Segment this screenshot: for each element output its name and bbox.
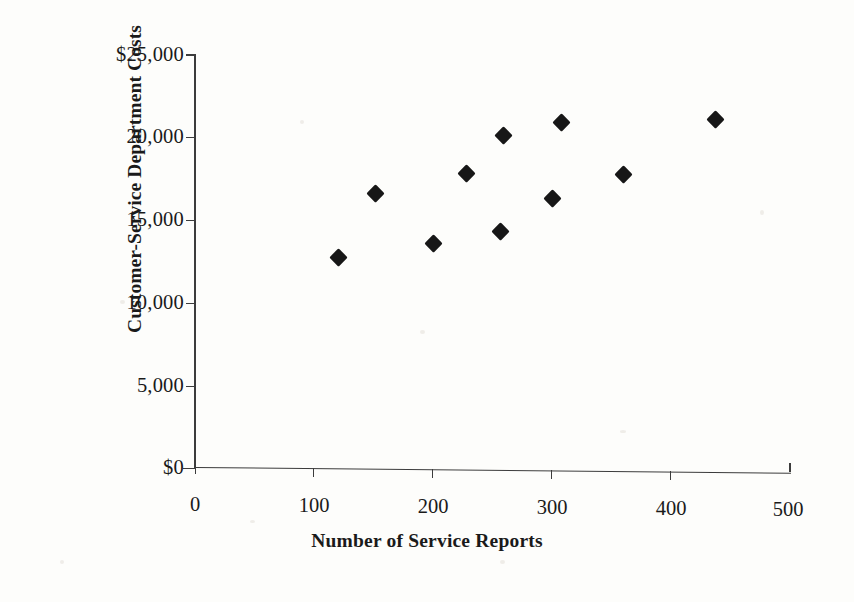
x-tick-label: 400 (626, 498, 716, 519)
data-point (706, 110, 724, 128)
data-point (492, 222, 510, 240)
x-tick-400 (670, 471, 671, 480)
data-point (494, 126, 512, 144)
y-tick-5000 (186, 386, 195, 387)
x-tick-label: 0 (150, 494, 240, 515)
x-tick-label: 300 (507, 497, 597, 518)
x-tick-200 (432, 469, 433, 478)
y-tick-0 (183, 468, 195, 469)
scatter-plot-figure: $25,000 20,000 15,000 10,000 5,000 $0 0 … (0, 0, 854, 602)
data-point (457, 164, 475, 182)
x-tick-label: 500 (743, 499, 833, 520)
y-axis-title: Customer-Service Department Costs (124, 0, 146, 394)
y-tick-25000 (186, 55, 195, 56)
data-point (424, 235, 442, 253)
y-tick-label: $0 (64, 457, 184, 478)
plot-area (195, 55, 790, 468)
data-point (614, 166, 632, 184)
x-tick-label: 100 (269, 495, 359, 516)
paper-speck (500, 560, 505, 564)
x-tick-label: 200 (388, 496, 478, 517)
data-point (330, 249, 348, 267)
x-axis-title: Number of Service Reports (0, 530, 854, 552)
y-tick-10000 (186, 303, 195, 304)
y-tick-15000 (186, 220, 195, 221)
x-tick-300 (551, 470, 552, 479)
data-point (543, 190, 561, 208)
data-point (367, 185, 385, 203)
y-tick-20000 (186, 137, 195, 138)
x-axis-line (195, 467, 791, 474)
paper-speck (250, 520, 255, 523)
data-point (552, 114, 570, 132)
x-tick-100 (313, 468, 314, 477)
